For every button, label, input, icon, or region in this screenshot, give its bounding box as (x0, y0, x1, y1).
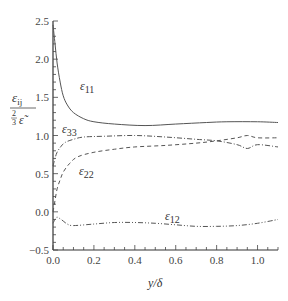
series-group (53, 25, 278, 227)
svg-text:2: 2 (12, 109, 16, 118)
x-axis-title: y/δ (147, 276, 163, 290)
svg-text:εij: εij (12, 90, 22, 107)
y-tick-label: 0.5 (35, 168, 49, 180)
series-label-11: ε11 (80, 79, 94, 95)
y-axis-title: εij 2 3 ε̃ (10, 90, 36, 127)
y-tick-label: 1.5 (35, 91, 49, 103)
series-label-33: ε33 (62, 122, 77, 138)
y-tick-label: 1.0 (35, 130, 49, 142)
axis-ticks: −0.50.00.51.01.52.02.50.00.20.40.60.81.0 (29, 15, 278, 266)
series-label-22: ε22 (79, 164, 94, 180)
series-ε11 (53, 25, 278, 126)
y-tick-label: 0.0 (35, 206, 49, 218)
x-tick-label: 0.0 (46, 254, 60, 266)
series-label-12: ε12 (165, 209, 180, 225)
series-labels: ε11ε33ε22ε12 (62, 79, 180, 225)
y-tick-label: 2.5 (35, 15, 49, 27)
svg-text:3: 3 (12, 118, 16, 127)
line-chart: −0.50.00.51.01.52.02.50.00.20.40.60.81.0… (0, 0, 288, 301)
series-ε33 (53, 135, 278, 166)
svg-text:ε̃: ε̃ (19, 113, 29, 127)
x-tick-label: 0.2 (87, 254, 101, 266)
x-tick-label: 0.8 (210, 254, 224, 266)
x-tick-label: 0.6 (169, 254, 183, 266)
x-tick-label: 1.0 (251, 254, 265, 266)
y-tick-label: 2.0 (35, 53, 49, 65)
x-tick-label: 0.4 (128, 254, 142, 266)
